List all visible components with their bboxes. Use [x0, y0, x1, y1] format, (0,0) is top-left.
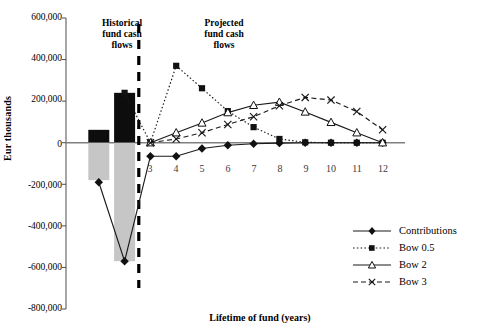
series-marker-bow-2-11 — [353, 129, 361, 136]
legend-label-bow-2: Bow 2 — [399, 259, 427, 270]
series-marker-bow-0-5-7 — [251, 124, 257, 130]
chart-figure: Eur thousands Lifetime of fund (years) 6… — [0, 0, 491, 336]
bar-positive-1 — [88, 130, 109, 143]
series-marker-contributions-5 — [198, 144, 206, 152]
legend-key-bow-2 — [352, 258, 392, 272]
legend-swatch-x-icon — [352, 275, 392, 289]
legend-item-bow-0-5[interactable]: Bow 0.5 — [352, 239, 457, 256]
bar-positive-2 — [114, 93, 135, 143]
series-marker-bow-2-5 — [198, 119, 206, 126]
series-marker-bow-0-5-10 — [328, 140, 334, 146]
series-marker-bow-2-10 — [327, 118, 335, 125]
legend-label-contributions: Contributions — [399, 225, 457, 236]
series-marker-bow-0-5-9 — [302, 139, 308, 145]
series-marker-bow-3-5 — [198, 129, 205, 136]
series-line-contributions — [99, 143, 383, 261]
legend-swatch-diamond-icon — [352, 224, 392, 238]
series-marker-bow-3-7 — [250, 113, 257, 120]
legend-key-bow-0-5 — [352, 241, 392, 255]
legend-key-bow-3 — [352, 275, 392, 289]
legend-key-contributions — [352, 224, 392, 238]
legend-item-bow-3[interactable]: Bow 3 — [352, 273, 457, 290]
legend-swatch-triangle-icon — [352, 258, 392, 272]
series-marker-contributions-7 — [249, 140, 257, 148]
legend-swatch-square-icon — [352, 241, 392, 255]
series-marker-bow-0-5-5 — [199, 85, 205, 91]
legend-item-bow-2[interactable]: Bow 2 — [352, 256, 457, 273]
series-marker-bow-0-5-2 — [122, 90, 128, 96]
legend-label-bow-3: Bow 3 — [399, 276, 427, 287]
series-marker-bow-3-11 — [353, 108, 360, 115]
bar-negative-1 — [88, 143, 109, 180]
series-marker-bow-3-4 — [173, 135, 180, 142]
series-marker-bow-3-12 — [379, 126, 386, 133]
legend-item-contributions[interactable]: Contributions — [352, 222, 457, 239]
series-marker-contributions-3 — [146, 152, 154, 160]
series-marker-bow-0-5-4 — [173, 63, 179, 69]
series-marker-contributions-4 — [172, 152, 180, 160]
chart-legend: Contributions Bow 0.5 Bow 2 — [352, 222, 457, 290]
bar-negative-2 — [114, 143, 135, 261]
series-marker-bow-0-5-8 — [276, 136, 282, 142]
legend-label-bow-0-5: Bow 0.5 — [399, 242, 435, 253]
series-marker-bow-0-5-11 — [354, 140, 360, 146]
series-marker-bow-3-6 — [224, 121, 231, 128]
